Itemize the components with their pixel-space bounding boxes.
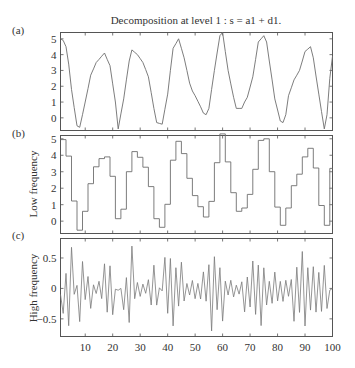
x-tick-label: 90 <box>300 341 312 353</box>
y-tick-label: 2 <box>51 80 57 92</box>
panel-a-x-ticks <box>85 33 332 131</box>
chart-title: Decomposition at level 1 : s = a1 + d1. <box>111 14 282 26</box>
decomposition-figure: Decomposition at level 1 : s = a1 + d1. … <box>0 0 355 368</box>
y-tick-label: −0.5 <box>37 313 57 325</box>
x-tick-label: 60 <box>217 341 229 353</box>
x-tick-label: 50 <box>190 341 202 353</box>
panel-a-label: (a) <box>12 24 25 37</box>
panel-a: (a) 012345 <box>12 24 333 131</box>
panel-b: (b) Low frequency 012345 <box>12 127 333 234</box>
signal-line <box>61 33 333 129</box>
x-tick-label: 30 <box>135 341 147 353</box>
panel-b-frame <box>61 136 333 234</box>
y-tick-label: 0 <box>51 215 57 227</box>
y-tick-label: 4 <box>51 149 57 161</box>
panel-b-ylabel: Low frequency <box>27 150 39 217</box>
y-tick-label: 5 <box>51 33 57 45</box>
x-tick-label: 100 <box>324 341 341 353</box>
x-tick-label: 40 <box>162 341 174 353</box>
panel-c-label: (c) <box>12 229 25 242</box>
y-tick-label: 5 <box>51 133 57 145</box>
panel-b-label: (b) <box>12 127 25 140</box>
x-tick-label: 80 <box>272 341 284 353</box>
panel-a-frame <box>61 33 333 131</box>
y-tick-label: 0.5 <box>43 252 57 264</box>
y-tick-label: 0 <box>51 282 57 294</box>
y-tick-label: 3 <box>51 166 57 178</box>
low-frequency-line <box>61 134 333 230</box>
y-tick-label: 1 <box>51 199 57 211</box>
panel-c: (c) High frequency −0.500.5 102030405060… <box>12 229 341 353</box>
panel-a-y-ticks: 012345 <box>51 33 333 124</box>
y-tick-label: 3 <box>51 64 57 76</box>
panel-b-x-ticks <box>85 136 332 234</box>
y-tick-label: 4 <box>51 49 57 61</box>
y-tick-label: 1 <box>51 96 57 108</box>
x-tick-label: 10 <box>80 341 92 353</box>
x-tick-label: 20 <box>107 341 119 353</box>
x-tick-label: 70 <box>245 341 257 353</box>
high-frequency-line <box>61 246 333 331</box>
y-tick-label: 0 <box>51 112 57 124</box>
y-tick-label: 2 <box>51 182 57 194</box>
